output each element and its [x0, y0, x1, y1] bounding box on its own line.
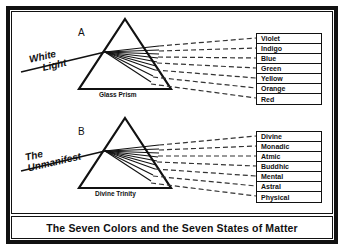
diagram-b-letter: B: [78, 126, 85, 137]
list-item: Atmic: [257, 152, 321, 162]
list-item: Divine: [257, 132, 321, 142]
list-item: Buddhic: [257, 162, 321, 172]
list-item: Mental: [257, 172, 321, 182]
list-item: Physical: [257, 192, 321, 202]
seven-states-list: Divine Monadic Atmic Buddhic Mental Astr…: [256, 131, 322, 203]
list-item: Astral: [257, 182, 321, 192]
seven-colors-list: Violet Indigo Blue Green Yellow Orange R…: [256, 33, 322, 105]
list-item: Indigo: [257, 44, 321, 54]
list-item: Blue: [257, 54, 321, 64]
glass-prism-caption: Glass Prism: [99, 91, 137, 98]
figure-root: A Glass Prism White Light B Divine Trini…: [0, 0, 344, 250]
figure-caption-bar: The Seven Colors and the Seven States of…: [11, 216, 333, 239]
divine-trinity-caption: Divine Trinity: [95, 190, 136, 197]
list-item: Monadic: [257, 142, 321, 152]
list-item: Orange: [257, 84, 321, 94]
figure-caption-text: The Seven Colors and the Seven States of…: [46, 222, 298, 234]
list-item: Red: [257, 94, 321, 104]
diagram-a-letter: A: [78, 27, 85, 38]
list-item: Green: [257, 64, 321, 74]
list-item: Yellow: [257, 74, 321, 84]
list-item: Violet: [257, 34, 321, 44]
